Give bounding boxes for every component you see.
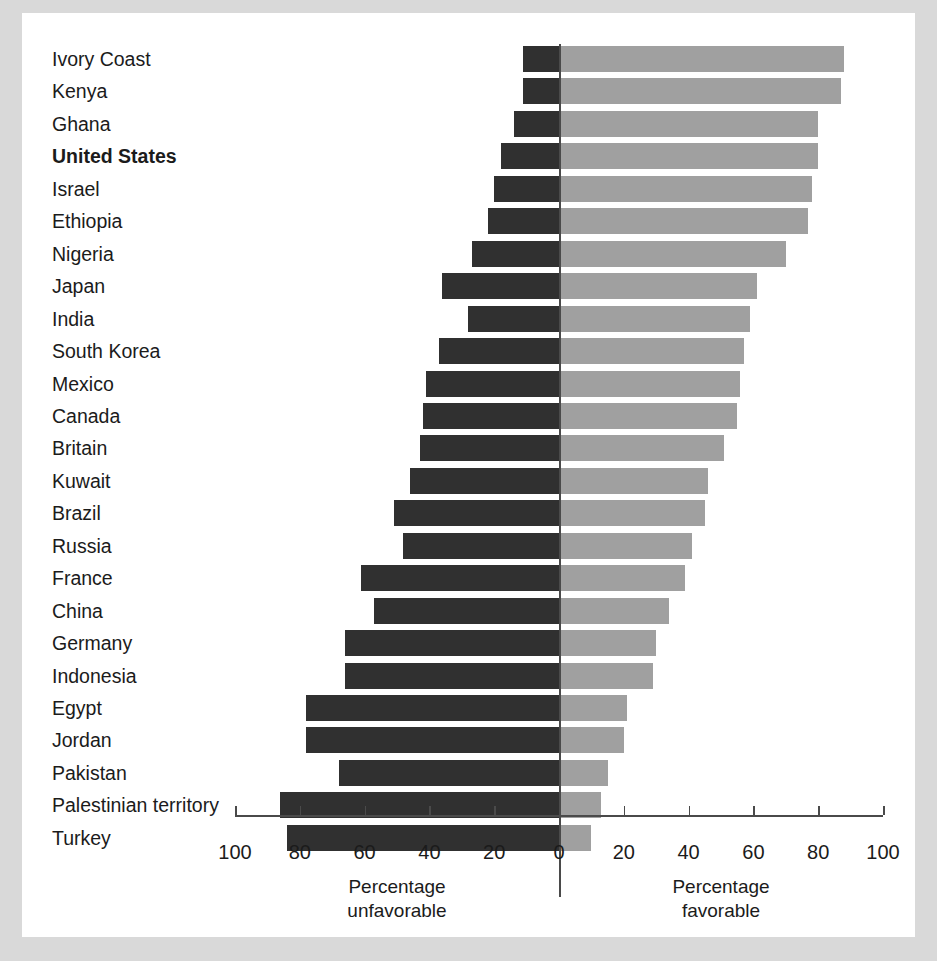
category-label: Jordan xyxy=(52,727,112,753)
bar-unfavorable xyxy=(394,500,559,526)
x-axis-tick-label: 0 xyxy=(529,841,589,864)
x-axis-tick xyxy=(753,806,755,815)
bar-unfavorable xyxy=(403,533,559,559)
bar-unfavorable xyxy=(472,241,559,267)
bar-favorable xyxy=(559,695,627,721)
bar-favorable xyxy=(559,143,818,169)
category-label: South Korea xyxy=(52,338,160,364)
bar-unfavorable xyxy=(361,565,559,591)
x-axis-tick-label: 20 xyxy=(464,841,524,864)
x-axis-tick-label: 100 xyxy=(853,841,913,864)
bar-unfavorable xyxy=(439,338,559,364)
x-axis-tick-label: 60 xyxy=(335,841,395,864)
x-axis-tick xyxy=(494,806,496,815)
bar-favorable xyxy=(559,176,812,202)
bar-favorable xyxy=(559,468,708,494)
category-label: Brazil xyxy=(52,500,101,526)
bar-unfavorable xyxy=(442,273,559,299)
x-axis-tick xyxy=(365,806,367,815)
category-label: Ethiopia xyxy=(52,208,122,234)
bar-unfavorable xyxy=(420,435,559,461)
x-axis-tick-label: 20 xyxy=(594,841,654,864)
category-label: Kuwait xyxy=(52,468,111,494)
x-axis-tick-label: 100 xyxy=(205,841,265,864)
axis-caption-favorable: Percentage favorable xyxy=(601,875,841,924)
bar-unfavorable xyxy=(488,208,559,234)
category-label: Ghana xyxy=(52,111,111,137)
bar-favorable xyxy=(559,78,841,104)
x-axis-tick-label: 80 xyxy=(788,841,848,864)
bar-favorable xyxy=(559,435,724,461)
bar-favorable xyxy=(559,663,653,689)
x-axis-tick-label: 60 xyxy=(723,841,783,864)
bar-favorable xyxy=(559,727,624,753)
bar-unfavorable xyxy=(494,176,559,202)
axis-caption-unfavorable-line1: Percentage xyxy=(277,875,517,899)
category-label: Japan xyxy=(52,273,105,299)
category-label: Palestinian territory xyxy=(52,792,219,818)
category-label: China xyxy=(52,598,103,624)
bar-unfavorable xyxy=(523,46,559,72)
x-axis-tick-label: 40 xyxy=(659,841,719,864)
category-label: Turkey xyxy=(52,825,111,851)
bar-favorable xyxy=(559,565,685,591)
chart-figure: Ivory CoastKenyaGhanaUnited StatesIsrael… xyxy=(0,0,937,961)
axis-caption-unfavorable: Percentage unfavorable xyxy=(277,875,517,924)
category-label: Israel xyxy=(52,176,100,202)
bar-unfavorable xyxy=(339,760,559,786)
bar-favorable xyxy=(559,403,737,429)
x-axis-tick xyxy=(559,806,561,815)
x-axis-tick xyxy=(300,806,302,815)
category-label: Egypt xyxy=(52,695,102,721)
category-label: Russia xyxy=(52,533,112,559)
bar-unfavorable xyxy=(426,371,559,397)
x-axis-tick xyxy=(689,806,691,815)
bar-unfavorable xyxy=(423,403,559,429)
axis-caption-favorable-line1: Percentage xyxy=(601,875,841,899)
category-label: Germany xyxy=(52,630,132,656)
category-label: Ivory Coast xyxy=(52,46,151,72)
chart-card: Ivory CoastKenyaGhanaUnited StatesIsrael… xyxy=(22,13,915,937)
category-label: United States xyxy=(52,143,177,169)
bar-unfavorable xyxy=(345,663,559,689)
axis-caption-unfavorable-line2: unfavorable xyxy=(277,899,517,923)
bar-favorable xyxy=(559,630,656,656)
x-axis-tick-label: 80 xyxy=(270,841,330,864)
x-axis-tick xyxy=(883,806,885,815)
zero-axis-line xyxy=(559,44,561,897)
bar-favorable xyxy=(559,241,786,267)
bar-favorable xyxy=(559,533,692,559)
bar-unfavorable xyxy=(501,143,559,169)
x-axis-tick-label: 40 xyxy=(399,841,459,864)
bar-unfavorable xyxy=(306,727,559,753)
category-label: India xyxy=(52,306,94,332)
bar-favorable xyxy=(559,500,705,526)
bar-favorable xyxy=(559,306,750,332)
bar-unfavorable xyxy=(374,598,559,624)
bar-unfavorable xyxy=(345,630,559,656)
category-label: France xyxy=(52,565,113,591)
category-label: Kenya xyxy=(52,78,107,104)
bar-favorable xyxy=(559,371,740,397)
category-label: Nigeria xyxy=(52,241,114,267)
x-axis-tick xyxy=(235,806,237,815)
bar-favorable xyxy=(559,338,744,364)
x-axis-tick xyxy=(624,806,626,815)
category-label: Canada xyxy=(52,403,120,429)
diverging-bar-plot: Ivory CoastKenyaGhanaUnited StatesIsrael… xyxy=(22,13,915,937)
x-axis-tick xyxy=(818,806,820,815)
bar-favorable xyxy=(559,111,818,137)
axis-caption-favorable-line2: favorable xyxy=(601,899,841,923)
bar-unfavorable xyxy=(306,695,559,721)
bar-favorable xyxy=(559,760,608,786)
category-label: Mexico xyxy=(52,371,114,397)
bar-favorable xyxy=(559,273,757,299)
bar-favorable xyxy=(559,208,808,234)
category-label: Pakistan xyxy=(52,760,127,786)
bar-favorable xyxy=(559,46,844,72)
bar-favorable xyxy=(559,598,669,624)
x-axis-tick xyxy=(429,806,431,815)
bar-unfavorable xyxy=(410,468,559,494)
bar-unfavorable xyxy=(514,111,559,137)
category-label: Britain xyxy=(52,435,107,461)
